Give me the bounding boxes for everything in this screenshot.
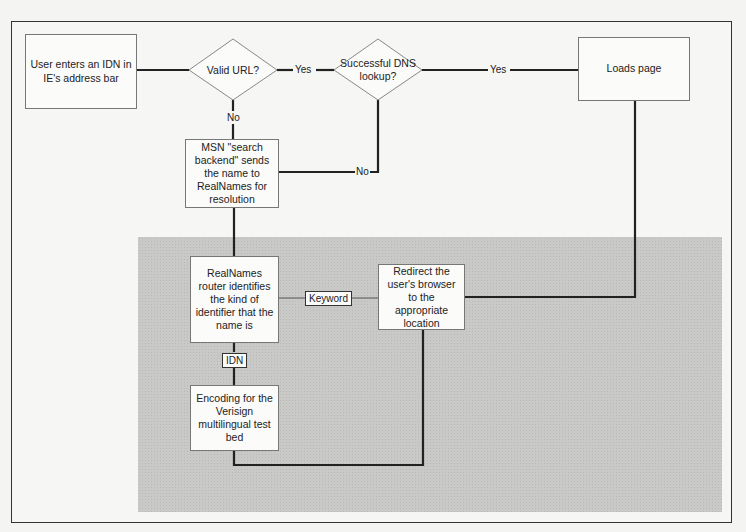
- valid-url-label-wrap: Valid URL?: [193, 56, 273, 84]
- edge-label-valid-no: No: [226, 112, 241, 124]
- loads-page-label: Loads page: [607, 62, 662, 76]
- msn-backend-label: MSN "search backend" sends the name to R…: [190, 141, 274, 206]
- valid-url-label: Valid URL?: [207, 64, 259, 77]
- dns-lookup-label-wrap: Successful DNS lookup?: [340, 55, 416, 85]
- encoding-box: Encoding for the Verisign multilingual t…: [190, 385, 279, 451]
- dns-lookup-label: Successful DNS lookup?: [340, 57, 416, 83]
- start-box: User enters an IDN in IE's address bar: [25, 34, 137, 109]
- edge-tag-idn: IDN: [222, 353, 247, 368]
- edge-label-dns-yes: Yes: [489, 64, 507, 76]
- edge-label-dns-no: No: [355, 166, 370, 178]
- redirect-label: Redirect the user's browser to the appro…: [383, 265, 460, 330]
- realnames-router-box: RealNames router identifies the kind of …: [190, 256, 279, 343]
- edge-label-valid-yes: Yes: [294, 64, 312, 76]
- loads-page-box: Loads page: [578, 37, 690, 101]
- encoding-label: Encoding for the Verisign multilingual t…: [195, 392, 274, 444]
- start-label: User enters an IDN in IE's address bar: [30, 58, 132, 85]
- realnames-router-label: RealNames router identifies the kind of …: [195, 267, 274, 332]
- msn-backend-box: MSN "search backend" sends the name to R…: [185, 139, 279, 208]
- redirect-box: Redirect the user's browser to the appro…: [378, 264, 465, 330]
- edge-tag-keyword: Keyword: [305, 291, 352, 306]
